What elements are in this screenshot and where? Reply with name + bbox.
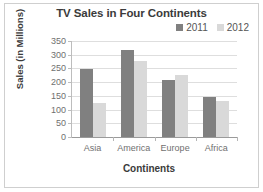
legend-item-2012[interactable]: 2012 xyxy=(217,22,249,33)
chart-title: TV Sales in Four Continents xyxy=(0,7,263,19)
bar-europe-2012[interactable] xyxy=(175,75,188,137)
legend-label-2011: 2011 xyxy=(186,22,208,33)
bar-america-2012[interactable] xyxy=(134,61,147,137)
bar-group: Asia xyxy=(72,41,113,137)
legend-item-2011[interactable]: 2011 xyxy=(176,22,208,33)
x-axis-separator xyxy=(113,137,114,141)
bar-africa-2012[interactable] xyxy=(216,101,229,137)
bar-group: America xyxy=(113,41,154,137)
legend-swatch-2011 xyxy=(176,24,183,31)
y-axis-label: Sales (in Millions) xyxy=(13,0,27,99)
bar-asia-2012[interactable] xyxy=(93,103,106,137)
bar-group: Africa xyxy=(196,41,237,137)
legend-label-2012: 2012 xyxy=(227,22,249,33)
chart-container: TV Sales in Four Continents 2011 2012 Sa… xyxy=(0,0,263,192)
x-tick-label-europe: Europe xyxy=(155,143,196,153)
bar-asia-2011[interactable] xyxy=(80,69,93,137)
y-tick-label: 150 xyxy=(51,91,66,101)
y-tick-label: 0 xyxy=(61,132,66,142)
bar-africa-2011[interactable] xyxy=(203,97,216,137)
y-tick-label: 50 xyxy=(56,118,66,128)
x-tick-label-asia: Asia xyxy=(72,143,113,153)
y-tick-label: 350 xyxy=(51,36,66,46)
y-tick-label: 300 xyxy=(51,50,66,60)
x-axis-separator xyxy=(237,137,238,141)
x-axis-separator xyxy=(155,137,156,141)
bar-group: Europe xyxy=(155,41,196,137)
bar-europe-2011[interactable] xyxy=(162,80,175,137)
x-axis-separator xyxy=(196,137,197,141)
y-tick-label: 200 xyxy=(51,77,66,87)
x-tick-label-africa: Africa xyxy=(196,143,237,153)
y-tick-label: 100 xyxy=(51,105,66,115)
x-axis-label: Continents xyxy=(58,163,240,174)
chart-legend: 2011 2012 xyxy=(176,22,249,33)
y-tick-label: 250 xyxy=(51,63,66,73)
bar-america-2011[interactable] xyxy=(121,50,134,137)
x-tick-label-america: America xyxy=(113,143,154,153)
plot-area: 050100150200250300350 AsiaAmericaEuropeA… xyxy=(72,41,237,137)
y-tick-mark xyxy=(68,137,72,138)
legend-swatch-2012 xyxy=(217,24,224,31)
